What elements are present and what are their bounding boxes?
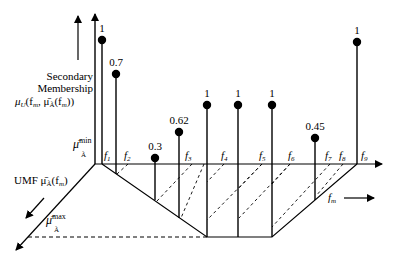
f-tick-1: f1	[104, 149, 111, 163]
f-tick-4: f4	[221, 149, 228, 163]
down-left-arrow-icon	[26, 198, 44, 218]
f-tick-7: f7	[325, 149, 332, 163]
f-tick-6: f6	[288, 149, 295, 163]
secondary-label-line2: Membership	[37, 82, 93, 94]
f-tick-9: f9	[361, 149, 368, 163]
mu-max-label: μ̄max	[45, 212, 66, 227]
f-tick-2: f2	[124, 149, 131, 163]
pin-value-1: 1	[99, 22, 105, 34]
pin-value-9: 1	[354, 24, 360, 36]
f-tick-3: f3	[185, 149, 192, 163]
umf-label: UMF μ̄Ã(fm)	[14, 174, 68, 188]
mu-max-sub: Ã	[54, 226, 59, 234]
pin-value-7: 1	[269, 87, 275, 99]
secondary-membership-diagram: 1 0.7 0.3 0.62 1 1 1 0.45 1 f1 f2 f3 f4 …	[0, 0, 393, 264]
pins	[99, 37, 361, 238]
pin-value-2: 0.7	[109, 56, 123, 68]
secondary-formula: μU(fm, μ̄Ã(fm))	[14, 95, 75, 109]
fm-label: fm	[328, 191, 336, 205]
pin-value-4: 0.62	[169, 114, 188, 126]
f-tick-5: f5	[259, 149, 266, 163]
pin-value-8: 0.45	[305, 120, 325, 132]
pin-value-6: 1	[235, 87, 241, 99]
secondary-label-line1: Secondary	[47, 70, 94, 82]
f-tick-8: f8	[339, 149, 346, 163]
pin-value-5: 1	[204, 87, 210, 99]
dashed-projections	[117, 164, 343, 227]
umf-trapezoid	[102, 164, 357, 237]
mu-min-label: μ̄min	[72, 136, 91, 151]
pin-value-3: 0.3	[148, 140, 162, 152]
mu-min-sub: Ã	[81, 151, 86, 159]
